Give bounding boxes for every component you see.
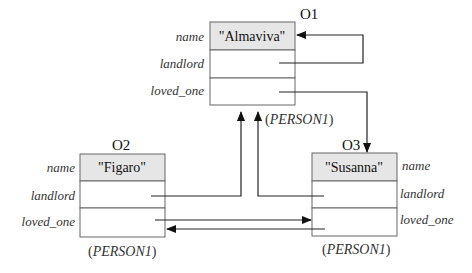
o3-name-label: name xyxy=(402,158,430,173)
o1-landlord-label: landlord xyxy=(160,56,205,71)
object-o2-title: O2 xyxy=(112,137,130,153)
object-o1: O1 "Almaviva" name landlord loved_one (P… xyxy=(151,6,334,128)
o2-name-value: "Figaro" xyxy=(98,160,146,175)
object-diagram: O1 "Almaviva" name landlord loved_one (P… xyxy=(0,0,472,273)
o1-landlord-cell xyxy=(210,50,295,78)
o1-name-label: name xyxy=(176,29,204,44)
o2-loved-one-label: loved_one xyxy=(22,214,76,229)
o1-name-value: "Almaviva" xyxy=(219,29,286,44)
o2-loved-one-cell xyxy=(80,208,165,237)
o2-class-label: (PERSON1) xyxy=(88,244,157,260)
object-o2: O2 "Figaro" name landlord loved_one (PER… xyxy=(22,137,165,260)
object-o3-title: O3 xyxy=(342,137,360,153)
o2-landlord-cell xyxy=(80,181,165,208)
object-o3: O3 "Susanna" name landlord loved_one (PE… xyxy=(312,137,454,258)
o3-landlord-label: landlord xyxy=(400,186,445,201)
o3-loved-one-cell xyxy=(312,208,397,236)
o3-name-value: "Susanna" xyxy=(325,160,383,175)
o1-loved-one-label: loved_one xyxy=(151,83,205,98)
o2-landlord-label: landlord xyxy=(31,188,76,203)
o3-landlord-cell xyxy=(312,181,397,208)
o3-loved-one-label: loved_one xyxy=(400,212,454,227)
object-o1-title: O1 xyxy=(300,6,318,22)
o1-class-label: (PERSON1) xyxy=(265,112,334,128)
o2-name-label: name xyxy=(47,160,75,175)
o3-class-label: (PERSON1) xyxy=(322,242,391,258)
